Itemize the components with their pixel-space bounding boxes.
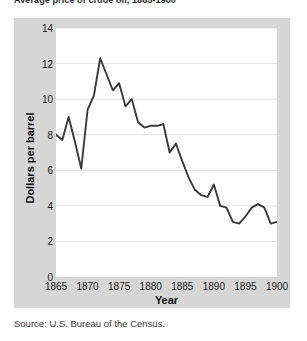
plot-area [56, 28, 277, 277]
y-axis-tick-2: 2 [23, 236, 53, 247]
chart-panel: Dollars per barrel 02468101214 186518701… [14, 18, 290, 308]
y-axis-tick-10: 10 [23, 94, 53, 105]
x-axis-tick-1890: 1890 [203, 281, 225, 292]
source-note: Source: U.S. Bureau of the Census. [14, 318, 165, 329]
x-axis-tick-1865: 1865 [45, 281, 67, 292]
x-axis-tick-1880: 1880 [140, 281, 162, 292]
y-axis-tick-8: 8 [23, 129, 53, 140]
chart-svg [56, 28, 277, 277]
y-axis-tick-14: 14 [23, 23, 53, 34]
data-series-line [56, 58, 277, 223]
x-axis-tick-1895: 1895 [234, 281, 256, 292]
top-caption-strip: Average price of crude oil, 1865-1900 [0, 0, 307, 9]
x-axis-tick-1875: 1875 [108, 281, 130, 292]
x-axis-tick-1900: 1900 [266, 281, 288, 292]
y-axis-tick-12: 12 [23, 58, 53, 69]
x-axis-title: Year [56, 294, 277, 306]
y-axis-tick-6: 6 [23, 165, 53, 176]
y-axis-tick-4: 4 [23, 200, 53, 211]
top-caption-text: Average price of crude oil, 1865-1900 [14, 0, 176, 5]
x-axis-tick-1885: 1885 [171, 281, 193, 292]
x-axis-tick-1870: 1870 [76, 281, 98, 292]
